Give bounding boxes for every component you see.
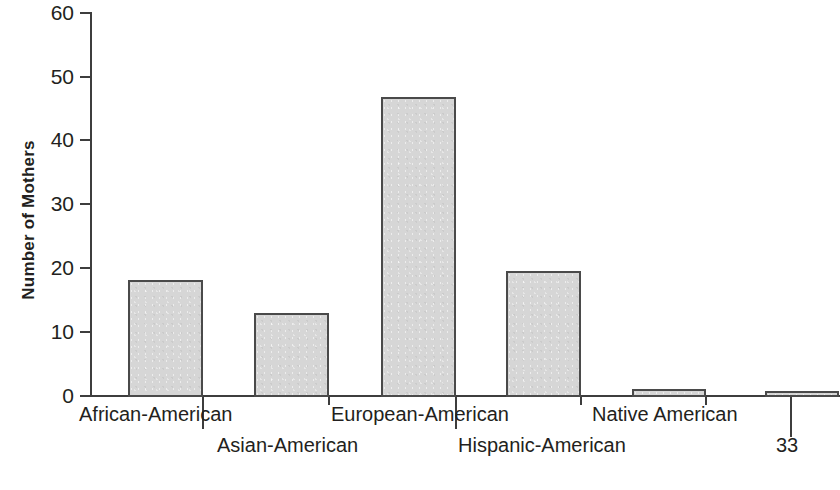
x-axis-label-asian-american: Asian-American [217, 434, 358, 456]
y-axis-label-0: 0 [8, 385, 74, 406]
bar-asian-american [254, 313, 329, 397]
y-axis-tick-40 [80, 139, 90, 141]
y-axis-tick-10 [80, 331, 90, 333]
x-axis-label-hispanic-american: Hispanic-American [458, 434, 626, 456]
y-axis-tick-20 [80, 267, 90, 269]
y-axis-tick-50 [80, 76, 90, 78]
y-axis-line [90, 12, 92, 397]
y-axis-tick-60 [80, 12, 90, 14]
x-axis-label-native-american: Native American [592, 403, 738, 425]
x-axis-tick-33 [790, 395, 792, 437]
y-axis-label-60: 60 [8, 2, 74, 23]
y-axis-label-30: 30 [8, 193, 74, 214]
bar-chart-figure: Number of Mothers 60 50 40 30 20 10 0 Af… [0, 0, 840, 490]
bar-native-american [632, 389, 706, 397]
bar-33 [765, 391, 839, 397]
y-axis-label-50: 50 [8, 66, 74, 87]
x-axis-label-33: 33 [776, 434, 798, 456]
y-axis-label-20: 20 [8, 257, 74, 278]
y-axis-tick-0 [80, 395, 90, 397]
y-axis-label-10: 10 [8, 321, 74, 342]
bar-european-american [381, 97, 456, 397]
x-axis-label-african-american: African-American [79, 403, 232, 425]
bar-african-american [128, 280, 203, 397]
bar-hispanic-american [506, 271, 581, 397]
y-axis-label-40: 40 [8, 129, 74, 150]
y-axis-tick-30 [80, 203, 90, 205]
x-axis-label-european-american: European-American [331, 403, 509, 425]
